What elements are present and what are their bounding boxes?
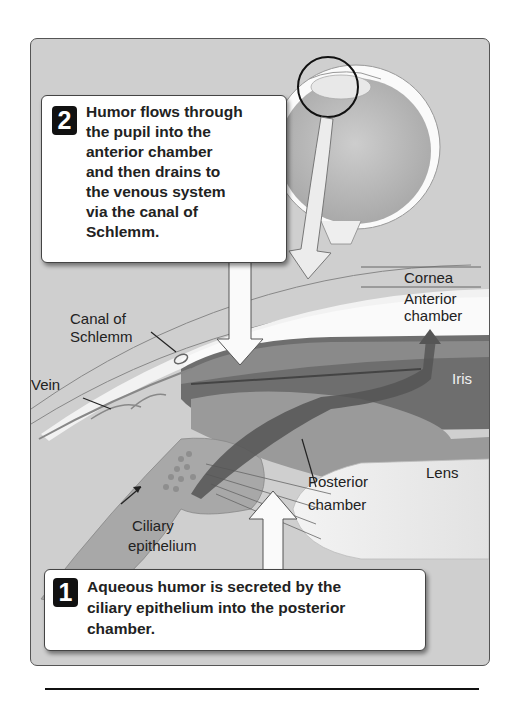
callout-step-2: 2 Humor flows through the pupil into the… (41, 95, 287, 263)
label-posterior-1: Posterior (308, 473, 368, 490)
label-iris: Iris (452, 370, 472, 387)
label-anterior-chamber-1: Anterior (404, 290, 457, 307)
figure-panel: 2 Humor flows through the pupil into the… (30, 38, 490, 666)
label-ciliary-2: epithelium (128, 537, 196, 554)
callout-2-text: Humor flows through the pupil into the a… (86, 102, 243, 242)
label-vein: Vein (31, 376, 60, 393)
label-ciliary-1: Ciliary (132, 517, 174, 534)
eyeball-icon (272, 57, 440, 244)
label-canal-2: Schlemm (70, 328, 133, 345)
label-cornea: Cornea (404, 269, 453, 286)
divider-rule (45, 688, 479, 690)
label-canal-1: Canal of (70, 310, 126, 327)
step-badge-2: 2 (52, 106, 77, 135)
label-lens: Lens (426, 464, 459, 481)
label-anterior-chamber-2: chamber (404, 307, 462, 324)
label-posterior-2: chamber (308, 496, 366, 513)
callout-step-1: 1 Aqueous humor is secreted by the cilia… (44, 569, 426, 651)
step-badge-1: 1 (53, 578, 78, 607)
callout-1-text: Aqueous humor is secreted by the ciliary… (87, 576, 345, 639)
